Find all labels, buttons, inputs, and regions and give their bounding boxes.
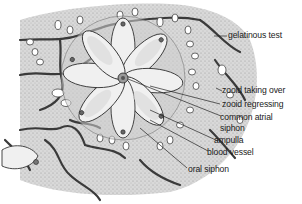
label-zooid-regressing: zooid regressing: [222, 100, 283, 109]
label-common-atrial-siphon-cont: siphon: [220, 124, 245, 133]
label-oral-siphon: oral siphon: [188, 165, 229, 174]
label-blood-vessel: blood vessel: [207, 148, 254, 157]
label-gelatinous-test: gelatinous test: [228, 31, 282, 40]
label-ampulla: ampulla: [214, 136, 243, 145]
label-common-atrial-siphon: common atrial: [220, 113, 273, 122]
label-zooid-taking-over: zooid taking over: [222, 86, 285, 95]
